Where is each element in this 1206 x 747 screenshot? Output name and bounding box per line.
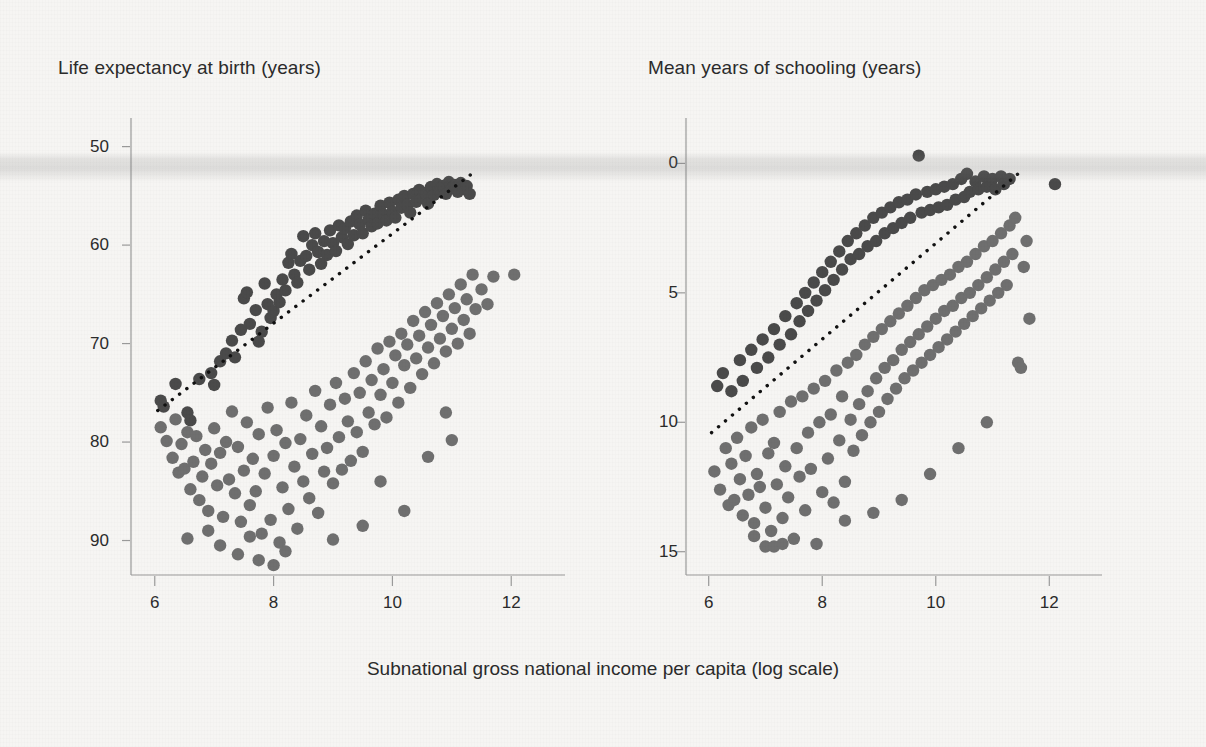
scatter-point <box>836 263 848 275</box>
scatter-point <box>508 268 520 280</box>
scatter-point <box>401 338 413 350</box>
scatter-point <box>202 505 214 517</box>
scatter-point <box>896 494 908 506</box>
scatter-point <box>365 374 377 386</box>
scatter-point <box>321 442 333 454</box>
scatter-point <box>250 485 262 497</box>
scatter-point <box>220 436 232 448</box>
scatter-point <box>759 501 771 513</box>
scatter-point <box>434 332 446 344</box>
scatter-point <box>836 390 848 402</box>
scatter-point <box>460 293 472 305</box>
scatter-point <box>297 230 309 242</box>
scatter-point <box>466 268 478 280</box>
scatter-point <box>768 437 780 449</box>
scatter-point <box>241 416 253 428</box>
scatter-point <box>175 438 187 450</box>
scatter-point <box>273 296 285 308</box>
scatter-point <box>802 426 814 438</box>
scatter-point <box>306 448 318 460</box>
x-tick-label: 10 <box>383 593 402 613</box>
scatter-point <box>717 367 729 379</box>
scatter-point <box>833 434 845 446</box>
scatter-point <box>819 284 831 296</box>
scatter-point <box>336 463 348 475</box>
scatter-point <box>392 396 404 408</box>
scatter-point <box>808 382 820 394</box>
scatter-point <box>250 304 262 316</box>
scatter-point <box>297 475 309 487</box>
scatter-point <box>359 355 371 367</box>
scatter-point <box>725 457 737 469</box>
scatter-point <box>825 256 837 268</box>
scatter-point <box>155 421 167 433</box>
scatter-point <box>910 188 922 200</box>
scatter-point <box>773 338 785 350</box>
scatter-point <box>291 523 303 535</box>
scatter-point <box>279 437 291 449</box>
scatter-point <box>199 444 211 456</box>
scatter-point <box>873 406 885 418</box>
scatter-point <box>887 354 899 366</box>
scatter-point <box>708 465 720 477</box>
scatter-point <box>748 530 760 542</box>
scatter-point <box>217 511 229 523</box>
scatter-point <box>253 554 265 566</box>
scatter-point <box>810 294 822 306</box>
scatter-point <box>261 401 273 413</box>
scatter-point <box>756 333 768 345</box>
scatter-point <box>193 494 205 506</box>
scatter-point <box>904 212 916 224</box>
scatter-point <box>788 533 800 545</box>
scatter-point <box>312 507 324 519</box>
scatter-point <box>315 420 327 432</box>
scatter-point <box>437 310 449 322</box>
scatter-point <box>160 435 172 447</box>
scatter-point <box>856 429 868 441</box>
y-tick-label: 15 <box>626 542 678 562</box>
scatter-series <box>711 149 1061 397</box>
scatter-point <box>1015 362 1027 374</box>
scatter-point <box>751 468 763 480</box>
scatter-point <box>205 458 217 470</box>
scatter-point <box>748 517 760 529</box>
scatter-point <box>386 377 398 389</box>
scatter-point <box>422 341 434 353</box>
scatter-point <box>267 559 279 571</box>
scatter-point <box>223 473 235 485</box>
scatter-point <box>300 409 312 421</box>
scatter-point <box>463 188 475 200</box>
scatter-point <box>867 507 879 519</box>
panel-title-left: Life expectancy at birth (years) <box>58 57 321 79</box>
scatter-point <box>244 530 256 542</box>
scatter-point <box>211 479 223 491</box>
scatter-point <box>839 476 851 488</box>
scatter-point <box>169 378 181 390</box>
scatter-point <box>1018 261 1030 273</box>
y-tick-label: 50 <box>57 137 109 157</box>
scatter-point <box>291 276 303 288</box>
scatter-point <box>226 405 238 417</box>
x-axis-label: Subnational gross national income per ca… <box>0 658 1206 680</box>
scatter-point <box>446 323 458 335</box>
scatter-point <box>793 470 805 482</box>
scatter-point <box>339 393 351 405</box>
scatter-point <box>816 486 828 498</box>
y-tick-label: 90 <box>57 531 109 551</box>
scatter-point <box>890 382 902 394</box>
scatter-point <box>270 424 282 436</box>
scatter-point <box>208 379 220 391</box>
y-tick-label: 10 <box>626 412 678 432</box>
scatter-point <box>362 406 374 418</box>
scatter-point <box>371 342 383 354</box>
scatter-point <box>205 367 217 379</box>
scatter-point <box>357 520 369 532</box>
scatter-point <box>827 274 839 286</box>
scatter-point <box>226 334 238 346</box>
scatter-point <box>348 367 360 379</box>
scatter-point <box>481 298 493 310</box>
scatter-point <box>813 416 825 428</box>
scatter-point <box>276 273 288 285</box>
scatter-point <box>214 447 226 459</box>
scatter-point <box>389 349 401 361</box>
